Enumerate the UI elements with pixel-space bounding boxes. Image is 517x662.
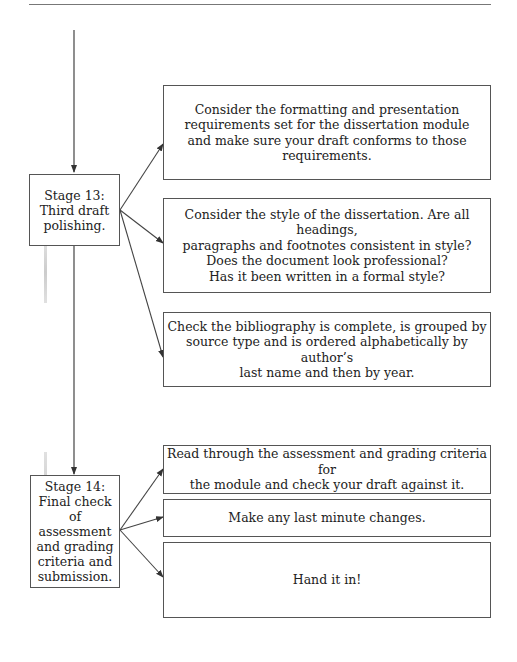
- task-text-line: paragraphs and footnotes consistent in s…: [164, 238, 490, 254]
- stage-14-line: of assessment: [34, 509, 116, 539]
- task-text-line: last name and then by year.: [164, 365, 490, 381]
- task-text-line: Does the document look professional?: [164, 253, 490, 269]
- task-text-line: Read through the assessment and grading …: [164, 446, 490, 477]
- stage-14-line: and grading: [34, 539, 116, 554]
- stage-14-line: Final check: [34, 494, 116, 509]
- task-text-line: source type and is ordered alphabeticall…: [164, 334, 490, 365]
- task-read-criteria: Read through the assessment and grading …: [163, 445, 491, 494]
- stage-14-line: Stage 14:: [34, 479, 116, 494]
- task-text-line: Has it been written in a formal style?: [164, 269, 490, 285]
- task-last-minute-changes: Make any last minute changes.: [163, 499, 491, 537]
- task-text-line: Hand it in!: [293, 572, 361, 588]
- stage-13-line: polishing.: [40, 218, 109, 233]
- task-formatting-requirements: Consider the formatting and presentation…: [163, 85, 491, 180]
- task-text-line: and make sure your draft conforms to tho…: [185, 133, 470, 149]
- stage-13-box: Stage 13: Third draft polishing.: [29, 174, 120, 246]
- stage-13-line: Stage 13:: [40, 188, 109, 203]
- task-style-consistency: Consider the style of the dissertation. …: [163, 198, 491, 293]
- task-hand-it-in: Hand it in!: [163, 542, 491, 618]
- task-text-line: Consider the formatting and presentation: [185, 102, 470, 118]
- task-text-line: Check the bibliography is complete, is g…: [164, 319, 490, 335]
- stage-14-box: Stage 14: Final check of assessment and …: [30, 475, 120, 588]
- stage-14-line: criteria and: [34, 554, 116, 569]
- task-text-line: requirements set for the dissertation mo…: [185, 117, 470, 133]
- task-text-line: requirements.: [185, 148, 470, 164]
- task-text-line: Consider the style of the dissertation. …: [164, 207, 490, 238]
- task-text-line: Make any last minute changes.: [228, 510, 425, 526]
- scan-smudge: [44, 241, 47, 303]
- task-text-line: the module and check your draft against …: [164, 477, 490, 493]
- task-bibliography-check: Check the bibliography is complete, is g…: [163, 312, 491, 387]
- stage-13-line: Third draft: [40, 203, 109, 218]
- stage-14-line: submission.: [34, 569, 116, 584]
